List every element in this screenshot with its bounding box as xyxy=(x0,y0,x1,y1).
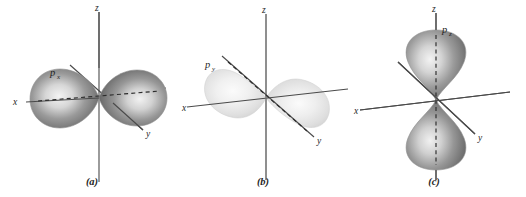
panel-px: x y z p x (a) xyxy=(0,0,176,197)
orbital-lobe-positive-x xyxy=(99,70,167,126)
orbital-label-py: p xyxy=(204,59,210,70)
axis-label-y: y xyxy=(145,129,151,139)
axis-label-x: x xyxy=(181,103,187,113)
axis-label-z: z xyxy=(261,5,266,15)
axis-label-z: z xyxy=(431,4,436,14)
panel-caption-a: (a) xyxy=(86,176,98,188)
panel-caption-b: (b) xyxy=(257,176,269,188)
axis-label-x: x xyxy=(12,97,18,107)
panel-py: x y z p y (b) xyxy=(176,0,352,197)
p-orbital-figure: x y z p x (a) xyxy=(0,0,526,197)
orbital-label-pz: p xyxy=(441,24,447,35)
axis-label-z: z xyxy=(94,3,99,13)
orbital-label-pz-subscript: z xyxy=(448,30,452,38)
orbital-label-px: p xyxy=(49,67,55,78)
axis-label-x: x xyxy=(353,106,359,116)
axis-label-y: y xyxy=(477,133,483,143)
panel-caption-c: (c) xyxy=(428,176,440,188)
panel-pz: x y z p z (c) xyxy=(350,0,526,197)
orbital-lobe-negative-y xyxy=(205,69,266,117)
axis-label-y: y xyxy=(316,136,322,146)
